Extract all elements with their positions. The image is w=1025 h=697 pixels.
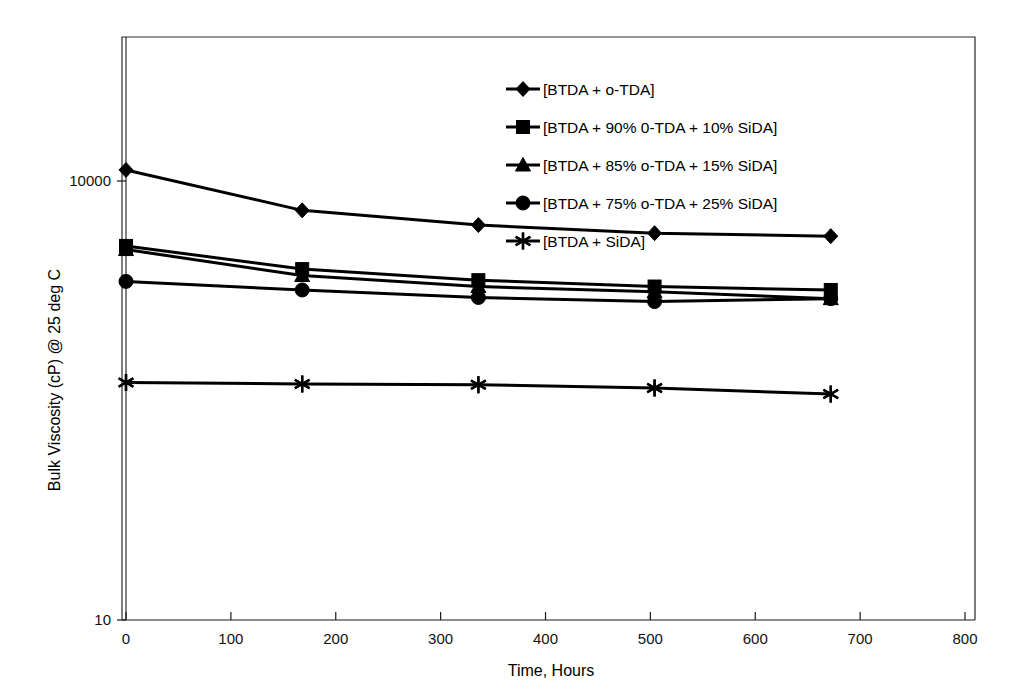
y-axis-title: Bulk Viscosity (cP) @ 25 deg C bbox=[46, 269, 63, 491]
data-point-marker bbox=[119, 274, 133, 288]
legend-label: [BTDA + SiDA] bbox=[543, 233, 645, 250]
legend-item: [BTDA + 85% o-TDA + 15% SiDA] bbox=[506, 157, 777, 174]
legend-item: [BTDA + 75% o-TDA + 25% SiDA] bbox=[506, 195, 777, 212]
y-tick-label: 10 bbox=[94, 611, 111, 628]
x-tick-label: 800 bbox=[952, 630, 977, 647]
x-tick-label: 100 bbox=[218, 630, 243, 647]
x-tick-label: 500 bbox=[638, 630, 663, 647]
legend-label: [BTDA + o-TDA] bbox=[543, 81, 655, 98]
x-axis-title: Time, Hours bbox=[508, 662, 595, 679]
legend-item: [BTDA + 90% 0-TDA + 10% SiDA] bbox=[506, 119, 777, 136]
y-tick-label: 10000 bbox=[69, 172, 111, 189]
chart-container: 0100200300400500600700800 1010000 [BTDA … bbox=[0, 0, 1025, 697]
legend-marker-circle bbox=[516, 196, 530, 210]
data-point-marker bbox=[295, 283, 309, 297]
legend-label: [BTDA + 90% 0-TDA + 10% SiDA] bbox=[543, 119, 777, 136]
legend-label: [BTDA + 85% o-TDA + 15% SiDA] bbox=[543, 157, 777, 174]
x-tick-label: 600 bbox=[743, 630, 768, 647]
data-point-marker bbox=[648, 295, 662, 309]
chart-background bbox=[0, 0, 1025, 697]
x-tick-label: 200 bbox=[323, 630, 348, 647]
x-tick-label: 700 bbox=[848, 630, 873, 647]
x-tick-label: 300 bbox=[428, 630, 453, 647]
legend-marker-square bbox=[517, 121, 530, 134]
legend-label: [BTDA + 75% o-TDA + 25% SiDA] bbox=[543, 195, 777, 212]
data-point-marker bbox=[824, 292, 838, 306]
data-point-marker bbox=[471, 290, 485, 304]
x-tick-label: 0 bbox=[122, 630, 130, 647]
x-tick-label: 400 bbox=[533, 630, 558, 647]
line-chart-figure: 0100200300400500600700800 1010000 [BTDA … bbox=[0, 0, 1025, 697]
